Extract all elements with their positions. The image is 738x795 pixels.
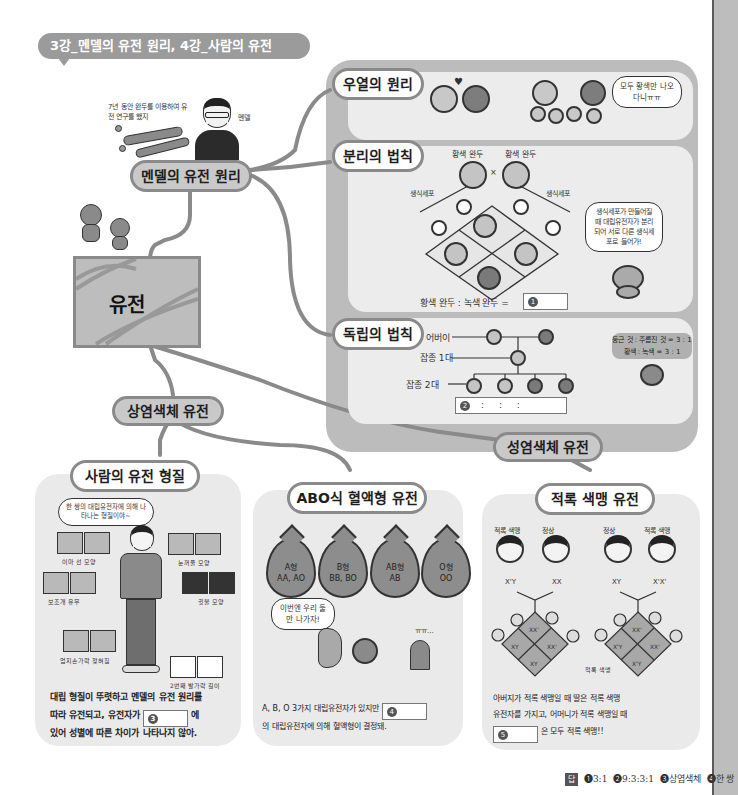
answer-1: ❶3:1	[584, 774, 607, 784]
right-cell-1: XX'	[632, 626, 642, 633]
left-cell-2: XY	[511, 643, 519, 650]
answer-3: ❸상염색체	[660, 774, 701, 784]
answer-key: 답 ❶3:1 ❷9:3:3:1 ❸상염색체 ❹한 쌍 ❺아들	[565, 772, 738, 786]
punnett-squares-colorblind	[0, 0, 738, 795]
left-cell-1: XX'	[529, 626, 539, 633]
answer-tag: 답	[565, 773, 578, 786]
left-cell-4: XY	[530, 660, 538, 667]
right-cell-4: X'Y	[632, 660, 641, 667]
right-cell-3: XX'	[650, 643, 660, 650]
right-caption: 적록 색맹	[585, 665, 611, 674]
colorblind-description: 아버지가 적록 색맹일 때 딸은 적록 색맹 유전자를 가지고, 어머니가 적록…	[493, 691, 698, 740]
answer-box-5[interactable]: 5	[493, 726, 538, 743]
left-cell-3: XX'	[547, 643, 557, 650]
answer-2: ❷9:3:3:1	[613, 774, 654, 784]
right-cell-2: X'Y	[613, 643, 622, 650]
answer-4: ❹한 쌍	[707, 774, 735, 784]
